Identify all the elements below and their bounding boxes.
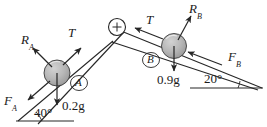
label-mass-a: A — [75, 77, 82, 88]
arrow-reaction-b — [178, 16, 191, 40]
arrow-tension-b — [135, 28, 163, 39]
physics-diagram: RA T FA 0.2g A 40° RB T FB 0.9g B 20° — [0, 0, 267, 127]
label-reaction-a-sub: A — [29, 43, 34, 52]
label-friction-b: FB — [228, 50, 241, 67]
angle-arc-right — [238, 81, 240, 88]
label-mass-b: B — [147, 54, 154, 65]
label-reaction-b-symbol: R — [189, 1, 197, 16]
label-friction-a: FA — [4, 94, 17, 111]
label-tension-right-symbol: T — [146, 12, 153, 27]
label-friction-a-symbol: F — [4, 93, 12, 108]
label-tension-right: T — [146, 13, 153, 26]
label-angle-left: 40° — [34, 106, 52, 119]
label-reaction-a-symbol: R — [21, 32, 29, 47]
label-reaction-a: RA — [21, 33, 34, 50]
label-tension-left: T — [68, 26, 75, 39]
pulley — [109, 19, 126, 36]
label-reaction-b: RB — [189, 2, 202, 19]
label-friction-b-symbol: F — [228, 49, 236, 64]
label-weight-a: 0.2g — [62, 99, 85, 112]
arrow-tension-a — [63, 48, 81, 65]
arrow-reaction-a — [33, 48, 52, 67]
arrow-friction-b — [188, 52, 222, 65]
label-weight-b: 0.9g — [157, 73, 180, 86]
label-tension-left-symbol: T — [68, 25, 75, 40]
label-friction-b-sub: B — [236, 60, 241, 69]
label-reaction-b-sub: B — [197, 12, 202, 21]
label-friction-a-sub: A — [12, 104, 17, 113]
label-angle-right: 20° — [204, 72, 222, 85]
